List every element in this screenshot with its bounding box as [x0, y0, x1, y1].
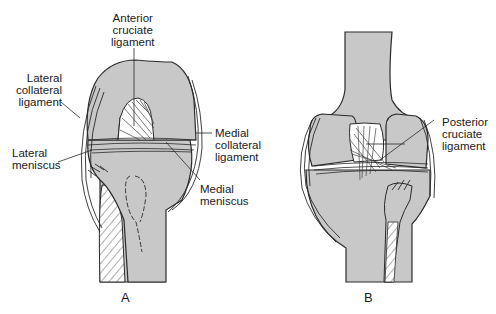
label-medial-collateral-ligament: Medial collateral ligament: [215, 127, 261, 163]
label-lateral-collateral-ligament: Lateral collateral ligament: [8, 72, 62, 108]
panel-a-artwork: [81, 60, 202, 282]
label-anterior-cruciate-ligament: Anterior cruciate ligament: [111, 12, 154, 48]
panel-b-artwork: [300, 32, 435, 282]
panel-letter-b: B: [364, 290, 373, 305]
panel-letter-a: A: [121, 290, 130, 305]
label-lateral-meniscus: Lateral meniscus: [12, 147, 61, 171]
label-medial-meniscus: Medial meniscus: [200, 183, 249, 207]
knee-ligament-diagram: Anterior cruciate ligament Lateral colla…: [0, 0, 496, 314]
label-posterior-cruciate-ligament: Posterior cruciate ligament: [442, 116, 488, 152]
